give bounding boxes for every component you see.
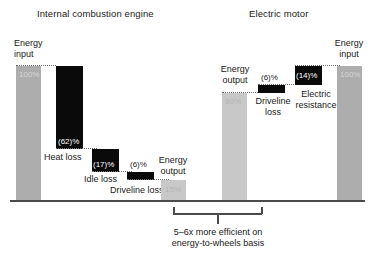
ice-heat-loss-value: (62)%: [58, 138, 79, 146]
ice-driveline-loss-label: Driveline loss: [110, 185, 164, 196]
em-driveline-loss-value: (6)%: [261, 74, 278, 82]
em-energy-input-label: Energy input: [329, 38, 369, 59]
chart-caption: 5–6x more efficient on energy-to-wheels …: [148, 227, 288, 249]
em-energy-output-label: Energy output: [211, 64, 259, 85]
ice-energy-input-label: Energy input: [14, 38, 43, 59]
panel-title-internal-combustion-engine: Internal combustion engine: [37, 8, 154, 19]
ice-connector-input-heat: [16, 65, 56, 66]
ice-heat-loss-label: Heat loss: [44, 152, 82, 163]
em-energy-input-value: 100%: [340, 71, 360, 79]
ice-driveline-loss-value: (6)%: [130, 161, 147, 169]
ice-energy-input-bar: [16, 66, 41, 200]
em-energy-output-bar: [222, 93, 247, 200]
ice-connector-heat-idle: [56, 148, 97, 149]
ice-idle-loss-label: Idle loss: [84, 174, 117, 185]
em-connector-resistance-input: [295, 65, 340, 66]
ice-energy-output-label: Energy output: [149, 155, 197, 176]
ice-idle-loss-value: (17)%: [93, 161, 114, 169]
ice-connector-idle-driveline: [92, 171, 132, 172]
bracket-right-tick: [261, 207, 263, 214]
em-electric-resistance-label: Electric resistance: [288, 89, 344, 110]
ice-energy-input-value: 100%: [19, 71, 39, 79]
em-connector-driveline-resistance: [258, 84, 300, 85]
em-electric-resistance-value: (14)%: [296, 72, 317, 80]
efficiency-waterfall-chart: Internal combustion engine Electric moto…: [0, 0, 371, 265]
em-energy-input-bar: [337, 66, 362, 200]
panel-title-electric-motor: Electric motor: [249, 8, 308, 19]
em-driveline-loss-bar: [258, 85, 285, 93]
em-connector-output-driveline: [222, 92, 262, 93]
chart-baseline: [10, 200, 365, 202]
bracket-stem: [217, 213, 219, 224]
ice-energy-output-value: 15%: [165, 186, 181, 194]
em-energy-output-value: 80%: [225, 98, 241, 106]
